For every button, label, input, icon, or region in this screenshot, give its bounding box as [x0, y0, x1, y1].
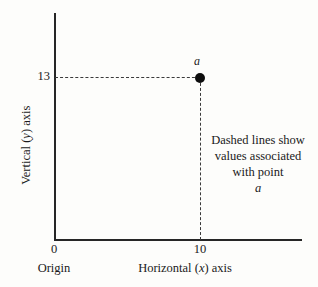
x-axis-title-prefix: Horizontal (: [138, 261, 199, 275]
annotation-line-2: values associated: [204, 148, 312, 164]
x-axis-line: [54, 239, 302, 241]
y-axis-title-variable: y: [19, 133, 33, 139]
vertical-dashed-guide-line: [200, 78, 201, 240]
x-axis-title: Horizontal (x) axis: [118, 262, 252, 275]
dashed-line-annotation: Dashed lines show values associated with…: [204, 132, 312, 196]
data-point-a-label: a: [194, 55, 200, 67]
origin-label: Origin: [27, 262, 81, 275]
horizontal-dashed-guide-line: [55, 77, 200, 78]
x-axis-tick-label-0: 0: [44, 243, 64, 256]
y-axis-title-suffix: ) axis: [19, 106, 33, 133]
annotation-line-3-prefix: with point: [204, 164, 312, 180]
annotation-line-3-variable: a: [204, 180, 312, 196]
data-point-a: [195, 73, 205, 83]
y-axis-title: Vertical (y) axis: [20, 75, 33, 215]
y-axis-title-prefix: Vertical (: [19, 139, 33, 185]
annotation-line-1: Dashed lines show: [204, 132, 312, 148]
scatter-plot-figure: a 13 0 10 Origin Horizontal (x) axis Ver…: [0, 0, 318, 287]
y-axis-line: [54, 13, 56, 241]
annotation-line-3: with point a: [204, 164, 312, 196]
x-axis-title-suffix: ) axis: [204, 261, 231, 275]
x-axis-tick-label-10: 10: [186, 243, 214, 256]
